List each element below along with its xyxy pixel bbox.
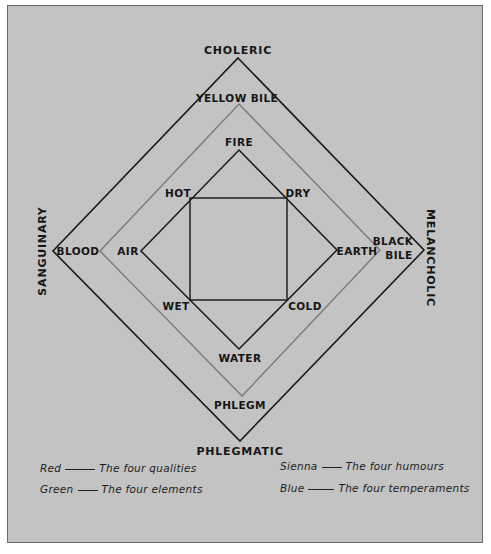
legend-dash <box>78 490 98 491</box>
label-bile: BILE <box>385 249 412 261</box>
legend-item-blue: BlueThe four temperaments <box>280 482 470 494</box>
legend-item-red: RedThe four qualities <box>40 462 197 474</box>
legend-item-green: GreenThe four elements <box>40 483 203 495</box>
legend-dash <box>308 489 334 490</box>
label-phlegm: PHLEGM <box>214 399 266 411</box>
label-air: AIR <box>117 245 138 257</box>
legend-color-name: Sienna <box>280 460 318 472</box>
label-wet: WET <box>162 300 190 312</box>
label-hot: HOT <box>165 187 192 199</box>
legend-meaning: The four temperaments <box>338 482 469 494</box>
legend-meaning: The four elements <box>102 483 203 495</box>
legend-dash <box>322 467 342 468</box>
label-black: BLACK <box>373 235 414 247</box>
label-fire: FIRE <box>225 136 253 148</box>
label-blood: BLOOD <box>57 245 100 257</box>
legend-dash <box>65 469 95 470</box>
legend-meaning: The four humours <box>346 460 445 472</box>
label-melancholic: MELANCHOLIC <box>424 209 437 307</box>
label-choleric: CHOLERIC <box>204 44 272 57</box>
legend-color-name: Blue <box>280 482 304 494</box>
legend-color-name: Red <box>40 462 61 474</box>
legend-color-name: Green <box>40 483 74 495</box>
label-cold: COLD <box>288 300 322 312</box>
qualities-square <box>190 198 287 300</box>
label-dry: DRY <box>285 187 310 199</box>
label-yellow-bile: YELLOW BILE <box>195 92 278 104</box>
label-phlegmatic: PHLEGMATIC <box>196 445 283 458</box>
elements-diamond <box>141 150 337 349</box>
label-earth: EARTH <box>337 245 378 257</box>
legend-meaning: The four qualities <box>99 462 196 474</box>
label-sanguinary: SANGUINARY <box>36 206 49 295</box>
legend-item-sienna: SiennaThe four humours <box>280 460 444 472</box>
label-water: WATER <box>219 352 262 364</box>
